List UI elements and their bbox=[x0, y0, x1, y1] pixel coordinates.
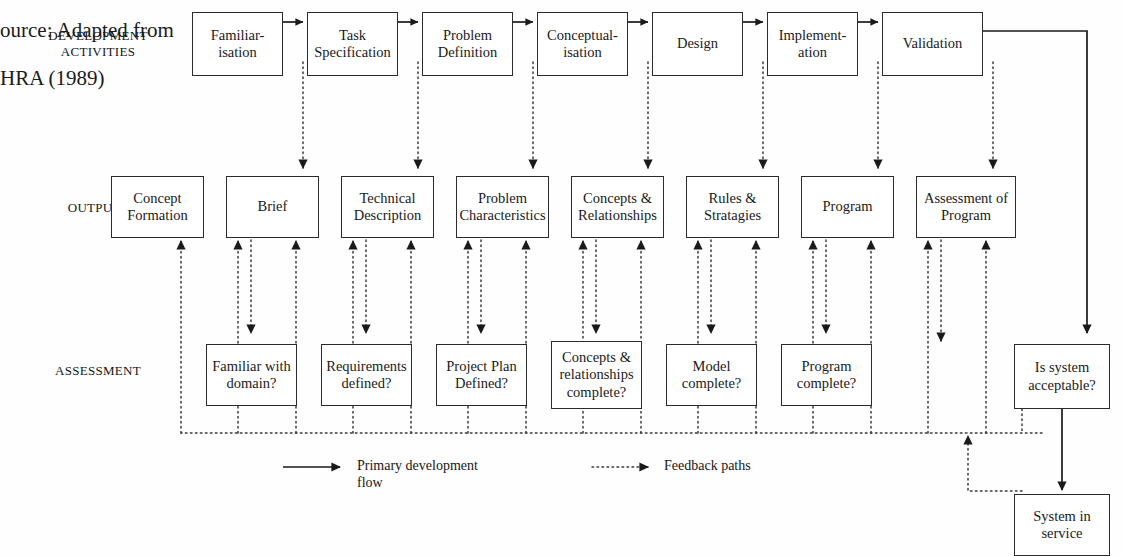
node-line2: Definition bbox=[438, 44, 498, 60]
node-line1: Conceptual- bbox=[547, 27, 618, 43]
node-problem-definition[interactable]: Problem Definition bbox=[422, 12, 513, 76]
node-line1: Validation bbox=[903, 35, 963, 51]
row-label-assessment: ASSESSMENT bbox=[18, 363, 178, 379]
legend-primary-line2: flow bbox=[357, 475, 557, 492]
node-concepts-relationships-complete[interactable]: Concepts & relationships complete? bbox=[551, 341, 642, 409]
node-line1: Rules & bbox=[709, 190, 757, 206]
node-line1: Requirements bbox=[326, 358, 407, 374]
node-line1: Concepts & bbox=[583, 190, 652, 206]
node-line1: Project Plan bbox=[446, 358, 516, 374]
node-technical-description[interactable]: Technical Description bbox=[341, 176, 434, 238]
legend-primary-label: Primary development flow bbox=[357, 458, 557, 492]
row-label-development-activities: DEVELOPMENT ACTIVITIES bbox=[18, 28, 178, 61]
node-line1: Is system bbox=[1035, 359, 1089, 375]
node-problem-characteristics[interactable]: Problem Characteristics bbox=[456, 176, 549, 238]
node-line1: System in bbox=[1033, 508, 1091, 524]
node-line2: Program bbox=[941, 207, 991, 223]
node-line1: Problem bbox=[443, 27, 492, 43]
node-line3: complete? bbox=[567, 384, 627, 400]
node-brief[interactable]: Brief bbox=[226, 176, 319, 238]
node-project-plan-defined[interactable]: Project Plan Defined? bbox=[436, 344, 527, 406]
node-model-complete[interactable]: Model complete? bbox=[666, 344, 757, 406]
node-line2: ation bbox=[798, 44, 827, 60]
node-line2: Relationships bbox=[578, 207, 657, 223]
row-label-line2: ACTIVITIES bbox=[18, 44, 178, 60]
node-design[interactable]: Design bbox=[652, 12, 743, 76]
node-task-specification[interactable]: Task Specification bbox=[307, 12, 398, 76]
node-program-complete[interactable]: Program complete? bbox=[781, 344, 872, 406]
node-line2: defined? bbox=[342, 375, 392, 391]
node-line1: Concept bbox=[133, 190, 181, 206]
node-line2: Description bbox=[354, 207, 422, 223]
node-line1: Program bbox=[823, 198, 873, 214]
legend-primary-line1: Primary development bbox=[357, 458, 557, 475]
node-line2: complete? bbox=[682, 375, 742, 391]
node-implementation[interactable]: Implement- ation bbox=[767, 12, 858, 76]
node-conceptualisation[interactable]: Conceptual- isation bbox=[537, 12, 628, 76]
legend-feedback-label: Feedback paths bbox=[664, 458, 864, 475]
node-line2: isation bbox=[563, 44, 602, 60]
node-concepts-relationships[interactable]: Concepts & Relationships bbox=[571, 176, 664, 238]
node-line1: Brief bbox=[258, 198, 288, 214]
node-line1: Model bbox=[693, 358, 731, 374]
node-line2: Stratagies bbox=[704, 207, 761, 223]
node-line2: service bbox=[1041, 525, 1082, 541]
node-line1: Implement- bbox=[779, 27, 847, 43]
node-line2: Formation bbox=[127, 207, 187, 223]
node-concept-formation[interactable]: Concept Formation bbox=[111, 176, 204, 238]
row-label-line1: ASSESSMENT bbox=[18, 363, 178, 379]
source-caption-line2: HRA (1989) bbox=[0, 66, 174, 90]
node-line2: complete? bbox=[797, 375, 857, 391]
node-system-in-service[interactable]: System in service bbox=[1014, 494, 1110, 556]
node-is-system-acceptable[interactable]: Is system acceptable? bbox=[1014, 344, 1110, 409]
node-program[interactable]: Program bbox=[801, 176, 894, 238]
node-line1: Task bbox=[339, 27, 366, 43]
row-label-line1: DEVELOPMENT bbox=[18, 28, 178, 44]
node-line1: Familiar with bbox=[212, 358, 291, 374]
node-line2: Characteristics bbox=[459, 207, 545, 223]
node-line2: isation bbox=[218, 44, 257, 60]
node-line2: relationships bbox=[559, 366, 633, 382]
node-line1: Assessment of bbox=[924, 190, 1008, 206]
node-line1: Technical bbox=[359, 190, 415, 206]
node-validation[interactable]: Validation bbox=[882, 12, 983, 76]
node-rules-stratagies[interactable]: Rules & Stratagies bbox=[686, 176, 779, 238]
node-line2: domain? bbox=[227, 375, 277, 391]
node-line1: Concepts & bbox=[562, 349, 631, 365]
node-familiar-with-domain[interactable]: Familiar with domain? bbox=[206, 344, 297, 406]
node-line1: Familiar- bbox=[211, 27, 265, 43]
node-line1: Program bbox=[802, 358, 852, 374]
node-line2: Defined? bbox=[455, 375, 508, 391]
node-familiarisation[interactable]: Familiar- isation bbox=[192, 12, 283, 76]
node-line2: acceptable? bbox=[1028, 377, 1096, 393]
legend-feedback-line1: Feedback paths bbox=[664, 458, 864, 475]
node-requirements-defined[interactable]: Requirements defined? bbox=[321, 344, 412, 406]
node-assessment-of-program[interactable]: Assessment of Program bbox=[916, 176, 1016, 238]
node-line1: Problem bbox=[478, 190, 527, 206]
node-line2: Specification bbox=[314, 44, 391, 60]
node-line1: Design bbox=[677, 35, 718, 51]
